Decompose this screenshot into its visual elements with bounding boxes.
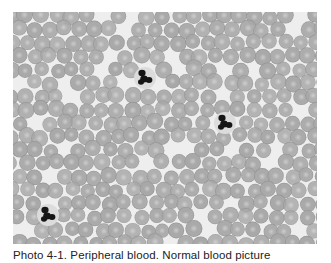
red-blood-cell [245,222,260,237]
red-blood-cell [79,61,94,76]
red-blood-cell [192,73,208,89]
red-blood-cell [232,127,247,142]
red-blood-cell [88,116,103,131]
red-blood-cell [269,210,285,226]
red-blood-cell [94,103,109,118]
red-blood-cell [260,181,276,197]
red-blood-cell [208,48,223,63]
red-blood-cell [36,156,51,171]
red-blood-cell [42,22,58,38]
red-blood-cell [65,222,79,236]
neutrophil [134,67,156,89]
red-blood-cell [187,128,203,144]
red-blood-cell [225,167,241,183]
red-blood-cell [193,194,208,209]
red-blood-cell [291,182,307,198]
neutrophil [37,204,59,226]
red-blood-cell [57,48,73,64]
red-blood-cell [134,141,149,156]
red-blood-cell [184,182,199,197]
red-blood-cell [20,182,35,197]
red-blood-cell [50,128,66,144]
red-blood-cell [153,153,169,169]
red-blood-cell [185,153,201,169]
red-blood-cell [63,154,79,170]
red-blood-cell [109,35,125,51]
red-blood-cell [241,168,256,183]
red-blood-cell [247,102,262,117]
red-blood-cell [209,20,225,36]
red-blood-cell [86,21,103,38]
red-blood-cell [172,154,187,169]
red-blood-cell [140,89,156,105]
red-blood-cell [300,197,316,213]
red-blood-cell [95,182,110,197]
red-blood-cell [246,34,261,49]
red-blood-cell [162,208,177,223]
red-blood-cell [240,47,257,64]
red-blood-cell [247,89,261,103]
neutrophil [214,112,236,134]
red-blood-cell [201,128,217,144]
red-blood-cell [85,194,101,210]
red-blood-cell [153,36,169,52]
red-blood-cell [125,87,142,104]
red-blood-cell [116,194,131,209]
red-blood-cell [89,50,104,65]
red-blood-cell [112,155,127,170]
red-blood-cell [64,128,78,142]
red-blood-cell [285,47,301,63]
red-blood-cell [195,22,210,37]
red-blood-cell [47,183,63,199]
red-blood-cell [78,155,94,171]
red-blood-cell [100,208,116,224]
red-blood-cell [19,154,36,171]
red-blood-cell [261,130,276,145]
figure-caption: Photo 4-1. Peripheral blood. Normal bloo… [13,249,323,263]
red-blood-cell [238,208,254,224]
red-blood-cell [299,167,314,182]
red-blood-cell [40,47,56,63]
red-blood-cell [135,210,150,225]
red-blood-cell [253,208,268,223]
red-blood-cell [179,74,194,89]
red-blood-cell [71,21,87,37]
red-blood-cell [35,62,49,76]
red-blood-cell [125,154,140,169]
red-blood-cell [49,154,64,169]
red-blood-cell [279,103,293,117]
red-blood-cell [209,141,224,156]
blood-smear-photo [13,12,317,244]
red-blood-cell [108,62,122,76]
red-blood-cell [300,210,315,225]
red-blood-cell [101,20,117,36]
red-blood-cell [270,74,286,90]
red-blood-cell [209,195,224,210]
red-blood-cell [299,47,315,63]
red-blood-cell [214,33,231,50]
red-blood-cell [237,75,253,91]
red-blood-cell [184,101,199,116]
red-blood-cell [230,222,245,237]
red-blood-cell [85,76,100,91]
red-blood-cell [171,128,186,143]
red-blood-cell [133,47,150,64]
red-blood-cell [18,102,35,119]
red-blood-cell [64,62,78,76]
red-blood-cell [230,184,245,199]
red-blood-cell [195,115,210,130]
red-blood-cell [253,194,268,209]
red-blood-cell [70,75,86,91]
red-blood-cell [78,222,94,238]
red-blood-cell [80,89,95,104]
red-blood-cell [262,103,278,119]
red-blood-cell [256,143,271,158]
red-blood-cell [184,87,199,102]
red-blood-cell [201,90,217,106]
red-blood-cell [27,74,41,88]
red-blood-cell [51,64,66,79]
red-blood-cell [85,140,101,156]
red-blood-cell [71,208,86,223]
red-blood-cell [13,169,27,184]
